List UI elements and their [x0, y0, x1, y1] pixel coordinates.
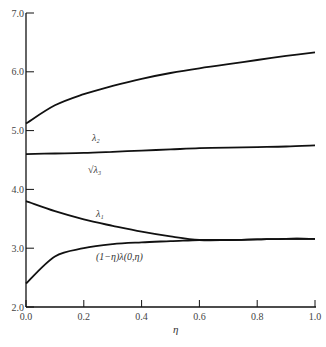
x-axis-label: η [173, 323, 178, 335]
x-tick-label: 0.8 [251, 311, 264, 322]
y-tick-label: 3.0 [12, 243, 25, 254]
label-lambda2: λ₂ [91, 132, 100, 143]
curve-labels: λ₂ √λ₃ λ₁ (1−η)λ(0,η) η [88, 132, 178, 335]
x-tick-label: 0.4 [135, 311, 148, 322]
curve-series-3 [26, 239, 315, 284]
curve-series-0 [26, 52, 315, 123]
x-tick-label: 0.6 [193, 311, 206, 322]
curve-series-2 [26, 201, 315, 240]
y-ticks: 2.03.04.05.06.07.0 [12, 8, 35, 313]
y-tick-label: 7.0 [12, 8, 25, 19]
label-lambda-zero: (1−η)λ(0,η) [96, 251, 143, 263]
x-tick-label: 1.0 [309, 311, 322, 322]
label-lambda1: λ₁ [95, 208, 104, 219]
label-lambda3-sqrt: √λ₃ [88, 164, 102, 175]
x-ticks: 0.00.20.40.60.81.0 [20, 300, 322, 322]
curves [26, 52, 315, 283]
y-tick-label: 5.0 [12, 125, 25, 136]
x-tick-label: 0.0 [20, 311, 33, 322]
line-chart: 2.03.04.05.06.07.0 0.00.20.40.60.81.0 λ₂… [0, 0, 326, 347]
x-tick-label: 0.2 [78, 311, 91, 322]
y-tick-label: 6.0 [12, 66, 25, 77]
curve-series-1 [26, 145, 315, 154]
y-tick-label: 4.0 [12, 184, 25, 195]
